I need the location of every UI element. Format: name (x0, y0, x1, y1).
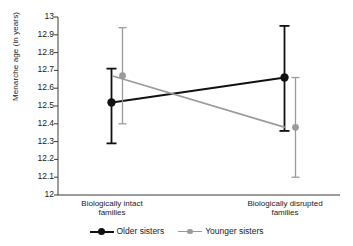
legend-label: Older sisters (117, 226, 165, 236)
y-axis-tick-label: 12.1 (20, 172, 54, 181)
x-axis-label-group-2: Biologically disruptedfamilies (225, 199, 345, 217)
y-axis-tick-label: 12 (20, 190, 54, 199)
legend-item-1[interactable]: Older sisters (90, 226, 165, 236)
data-point-marker (280, 73, 288, 81)
x-axis-label-line: families (225, 208, 345, 217)
data-point-marker (292, 124, 299, 131)
x-axis-label-line: families (52, 208, 172, 217)
y-axis-tick-label: 13 (20, 12, 54, 21)
legend-label: Younger sisters (205, 226, 263, 236)
series-line-2 (112, 76, 285, 128)
chart-legend: Older sistersYounger sisters (0, 226, 353, 236)
y-axis-tick-label: 12.3 (20, 137, 54, 146)
y-axis-tick-label: 12.8 (20, 48, 54, 57)
y-axis-tick-label: 12.9 (20, 30, 54, 39)
y-axis-tick-label: 12.4 (20, 119, 54, 128)
data-point-marker (119, 72, 126, 79)
legend-marker-icon (178, 227, 202, 236)
x-axis-label-group-1: Biologically intactfamilies (52, 199, 172, 217)
menarche-age-chart: Menarche age (in years) 1312.912.812.712… (0, 0, 353, 246)
x-axis-label-line: Biologically intact (52, 199, 172, 208)
y-axis-tick-labels: 1312.912.812.712.612.512.412.312.212.112 (14, 0, 54, 246)
legend-marker-icon (90, 227, 114, 236)
data-point-marker (107, 98, 115, 106)
x-axis-label-line: Biologically disrupted (225, 199, 345, 208)
series-line-1 (112, 78, 285, 103)
y-axis-tick-label: 12.2 (20, 154, 54, 163)
y-axis-tick-label: 12.7 (20, 65, 54, 74)
y-axis-tick-label: 12.5 (20, 101, 54, 110)
legend-item-2[interactable]: Younger sisters (178, 226, 263, 236)
y-axis-tick-label: 12.6 (20, 83, 54, 92)
